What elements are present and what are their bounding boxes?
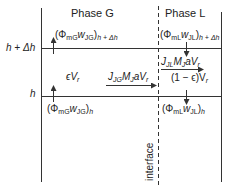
gas-volume-label: ϵVr [66, 72, 79, 83]
gas-upper-flux-label: (ΦmGwJG)h + Δh [55, 30, 118, 41]
phase-l-title: Phase L [165, 8, 205, 19]
mass-balance-diagram: Phase G Phase L h + Δh h (ΦmGwJG)h + Δh … [0, 0, 232, 188]
liquid-upper-flux-label: (ΦmLwJL)h + Δh [160, 30, 220, 41]
liquid-transfer-label: JJLMJaVr [161, 57, 200, 68]
gas-transfer-label: JJGMJaVr [108, 72, 148, 83]
liquid-volume-label: (1 − ϵ)Vr [171, 73, 208, 84]
upper-level-label: h + Δh [6, 43, 35, 53]
lower-level-label: h [30, 89, 36, 99]
gas-lower-flux-label: (ΦmGwJG)h [47, 104, 93, 115]
interface-label: interface [145, 143, 155, 181]
phase-g-title: Phase G [71, 8, 114, 19]
liquid-lower-flux-label: (ΦmLwJL)h [162, 104, 205, 115]
